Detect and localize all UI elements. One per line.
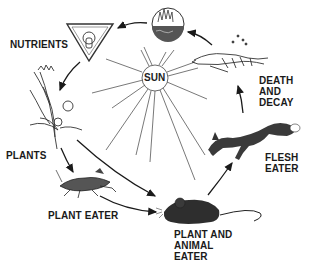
label-plants: PLANTS bbox=[6, 150, 47, 161]
label-flesh-eater: FLESH EATER bbox=[265, 152, 299, 174]
mouse-icon bbox=[156, 198, 261, 224]
label-nutrients: NUTRIENTS bbox=[10, 39, 68, 50]
label-plant-eater: PLANT EATER bbox=[48, 210, 118, 221]
wheat-plant-icon bbox=[30, 65, 82, 149]
skeleton-icon bbox=[192, 35, 268, 72]
soil-decomposition-circle-icon bbox=[152, 8, 184, 42]
nutrient-triangle-icon bbox=[67, 24, 113, 61]
label-plant-and-animal-eater: PLANT AND ANIMAL EATER bbox=[174, 229, 232, 262]
label-death-and-decay: DEATH AND DECAY bbox=[259, 75, 294, 108]
sun-label: SUN bbox=[144, 72, 165, 83]
grasshopper-icon bbox=[56, 168, 116, 198]
sun-icon bbox=[92, 47, 207, 180]
